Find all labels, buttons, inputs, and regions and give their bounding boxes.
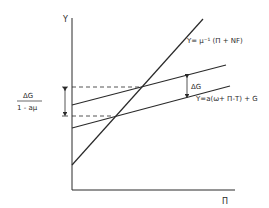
multiplier-denominator: 1 - aμ [17, 104, 38, 112]
lower-spending-line-label: Y=a(ω+ Π-T) + G [195, 95, 258, 103]
diagram-canvas: Y Π Y= μ⁻¹ (Π + NF) Y=a(ω+ Π-T) + G ΔG Δ… [0, 0, 269, 208]
lower-spending-line [72, 86, 230, 128]
income-line [72, 19, 203, 165]
delta-g-label: ΔG [191, 83, 201, 91]
multiplier-numerator: ΔG [23, 92, 33, 100]
x-axis-label: Π [222, 197, 228, 206]
y-axis-label: Y [62, 15, 68, 24]
income-line-label: Y= μ⁻¹ (Π + NF) [186, 37, 243, 45]
